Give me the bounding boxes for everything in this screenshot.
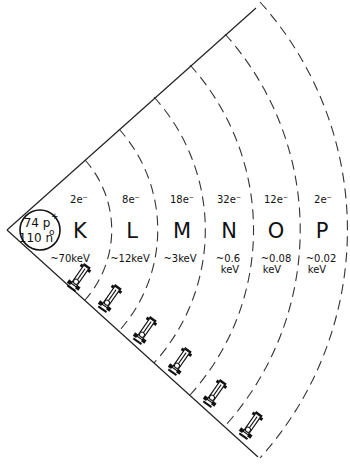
electron-count: 12e⁻ [264,194,288,205]
binding-energy-unit: keV [221,264,240,275]
shell-name: L [126,219,138,243]
shell-o: 12e⁻ O ~0.08 keV [261,194,292,275]
binding-energy: ~0.6 [216,253,240,264]
binding-energy: ~0.08 [261,253,292,264]
shell-p: 2e⁻ P ~0.02 keV [306,194,337,275]
race-car-icon [237,409,265,441]
race-car-icon [201,377,229,409]
binding-energy: ~12keV [110,253,150,264]
shell-name: P [316,219,329,243]
electron-count: 32e⁻ [217,194,241,205]
race-car-icon [65,261,93,293]
neutrons-label: 110 n [19,231,53,245]
protons-label: 74 p [24,216,51,230]
electron-count: 8e⁻ [122,194,140,205]
electron-count: 2e⁻ [70,194,88,205]
svg-text:74 p: 74 p [24,216,51,230]
shell-name: O [268,219,285,243]
shell-name: N [221,219,237,243]
neutrons-sup: o [49,227,55,237]
race-car-icon [131,314,159,346]
shell-m: 18e⁻ M ~3keV [163,194,196,264]
shell-boundary-l [119,129,158,331]
race-car-icon [96,282,124,314]
electron-count: 18e⁻ [170,194,194,205]
electron-count: 2e⁻ [314,194,332,205]
shell-n: 32e⁻ N ~0.6 keV [216,194,241,275]
nucleus: 74 p + 110 n o [19,210,60,250]
protons-sup: + [51,211,59,221]
binding-energy: ~0.02 [306,253,337,264]
binding-energy-unit: keV [308,264,327,275]
atom-shell-diagram: 74 p + 110 n o 2e⁻ K ~70keV 8e⁻ L ~12keV… [0,0,350,464]
binding-energy-unit: keV [263,264,282,275]
binding-energy: ~70keV [50,253,90,264]
svg-text:110 n: 110 n [19,231,53,245]
binding-energy: ~3keV [163,253,196,264]
shell-name: K [73,219,88,243]
shell-l: 8e⁻ L ~12keV [110,194,150,264]
race-car-icon [166,345,194,377]
shell-boundary-k [85,160,112,300]
shell-name: M [173,219,191,243]
